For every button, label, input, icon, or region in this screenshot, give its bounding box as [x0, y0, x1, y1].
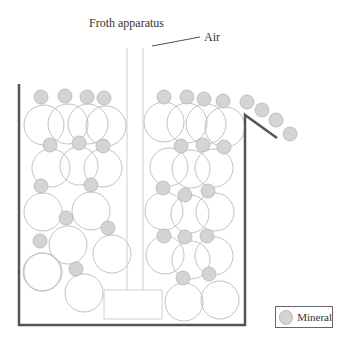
legend-mineral-label: Mineral [297, 311, 332, 323]
mineral-particle [80, 90, 94, 104]
tank-wall [19, 84, 277, 325]
legend: Mineral [275, 306, 333, 328]
mineral-particle [174, 139, 188, 153]
air-pointer-line [152, 37, 200, 46]
mineral-particle [43, 138, 57, 152]
froth-flotation-diagram [0, 0, 351, 345]
mineral-particle [101, 221, 115, 235]
mineral-particle [34, 179, 48, 193]
air-bubble [24, 193, 62, 231]
mineral-particle [178, 188, 192, 202]
air-bubble [195, 149, 233, 187]
mineral-particle [180, 90, 194, 104]
mineral-particle [59, 211, 73, 225]
air-bubble [167, 103, 207, 143]
mineral-particle [255, 103, 269, 117]
mineral-particle [197, 92, 211, 106]
air-label: Air [204, 30, 220, 45]
mineral-particle [72, 136, 86, 150]
air-bubble [201, 281, 239, 319]
air-bubble [150, 148, 188, 186]
mineral-particle [196, 138, 210, 152]
mineral-particle [283, 127, 297, 141]
air-bubble [196, 193, 234, 231]
mineral-particle [157, 90, 171, 104]
air-bubble [145, 192, 183, 230]
mineral-particle [156, 181, 170, 195]
mineral-particle [96, 139, 110, 153]
air-bubble [186, 104, 226, 144]
mineral-particle [97, 91, 111, 105]
mineral-particle [269, 113, 283, 127]
mineral-group [33, 89, 297, 285]
air-bubble [165, 283, 203, 321]
bubble-group [23, 102, 245, 321]
air-bubble [24, 105, 64, 145]
mineral-particle [201, 184, 215, 198]
air-bubble [24, 253, 62, 291]
air-bubble [144, 102, 184, 142]
mineral-particle [69, 262, 83, 276]
mineral-particle [178, 230, 192, 244]
mineral-particle [216, 94, 230, 108]
mineral-particle [217, 140, 231, 154]
mineral-particle [200, 229, 214, 243]
mineral-particle [34, 90, 48, 104]
mineral-particle [33, 234, 47, 248]
air-bubble [172, 150, 210, 188]
mineral-particle [58, 89, 72, 103]
sparger-box [104, 290, 162, 319]
mineral-particle [84, 178, 98, 192]
air-bubble [93, 235, 131, 273]
air-bubble [65, 274, 103, 312]
mineral-particle [157, 229, 171, 243]
mineral-particle [240, 95, 254, 109]
mineral-particle [176, 271, 190, 285]
mineral-swatch-icon [279, 310, 293, 325]
mineral-particle [202, 267, 216, 281]
froth-apparatus-title: Froth apparatus [89, 16, 164, 31]
air-bubble [49, 226, 87, 264]
